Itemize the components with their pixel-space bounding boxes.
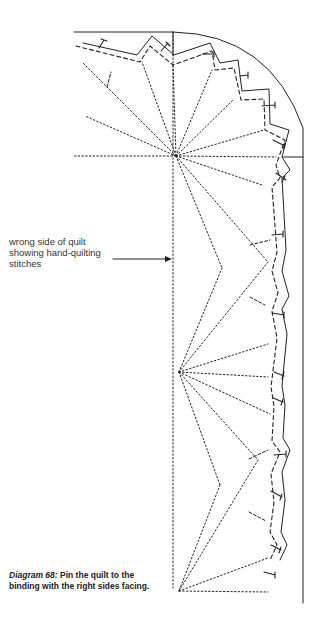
lower-fan-lines: [179, 344, 270, 592]
annotation-line-1: wrong side of quilt: [9, 236, 101, 247]
caption-lead: Diagram 68:: [9, 570, 58, 580]
annotation-line-3: stitches: [9, 258, 101, 269]
label-arrow-head: [165, 256, 172, 262]
middle-chevrons: [179, 262, 268, 372]
quilt-edge-solid: [83, 36, 290, 560]
upper-fan-lines: [73, 62, 276, 268]
quilt-edge-dashed: [76, 46, 285, 560]
pins: [99, 39, 286, 578]
binding-outer-edge: [74, 32, 303, 603]
figure-caption: Diagram 68: Pin the quilt to the binding…: [9, 570, 149, 592]
annotation-label: wrong side of quilt showing hand-quiltin…: [9, 236, 101, 269]
caption-line-1: Diagram 68: Pin the quilt to the: [9, 570, 149, 581]
caption-line-1-rest: Pin the quilt to the: [58, 570, 135, 580]
annotation-line-2: showing hand-quilting: [9, 247, 101, 258]
caption-line-2: binding with the right sides facing.: [9, 581, 149, 592]
quilt-binding-diagram: [0, 0, 311, 621]
